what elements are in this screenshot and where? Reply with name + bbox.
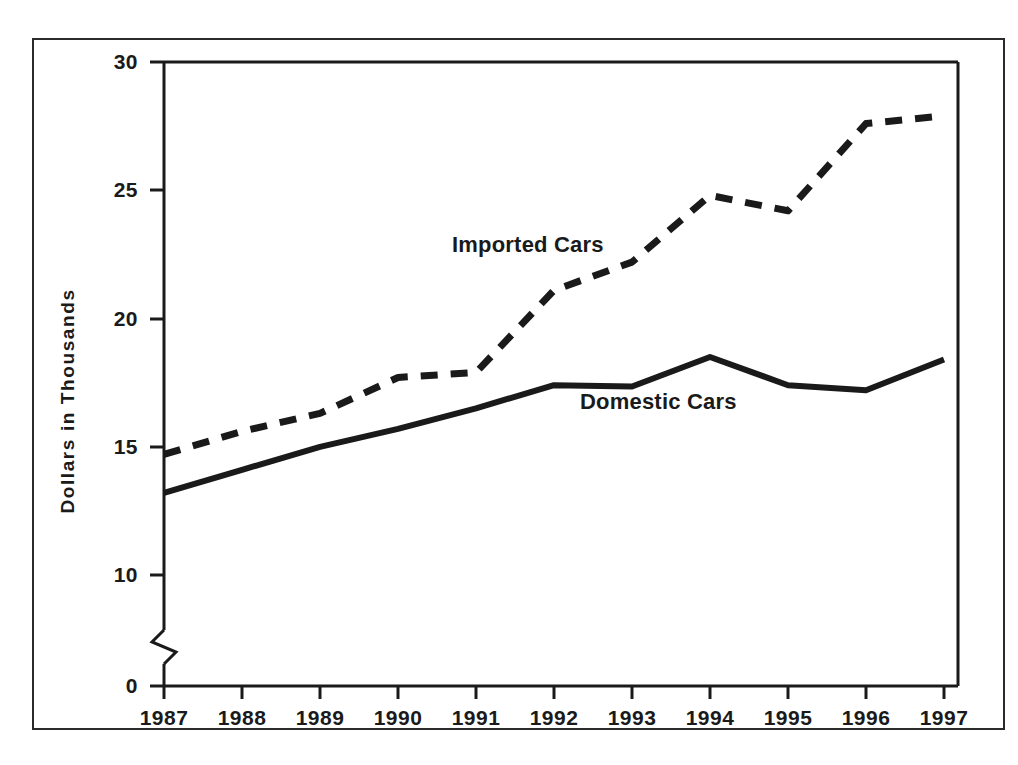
x-tick-marks [164, 686, 944, 699]
x-tick-label-1995: 1995 [743, 706, 833, 730]
x-tick-label-1994: 1994 [665, 706, 755, 730]
series-line-imported-cars [164, 116, 944, 455]
y-tick-label-15: 15 [78, 435, 138, 459]
series-label-domestic-cars: Domestic Cars [580, 389, 737, 415]
line-chart-plot [0, 0, 1018, 765]
y-axis-title: Dollars in Thousands [57, 281, 79, 521]
x-tick-label-1993: 1993 [587, 706, 677, 730]
x-tick-label-1989: 1989 [275, 706, 365, 730]
x-tick-label-1991: 1991 [431, 706, 521, 730]
y-tick-label-25: 25 [78, 178, 138, 202]
y-axis-break-symbol [152, 630, 176, 664]
x-tick-label-1990: 1990 [353, 706, 443, 730]
series-label-imported-cars: Imported Cars [452, 232, 604, 258]
x-tick-label-1987: 1987 [119, 706, 209, 730]
x-tick-label-1997: 1997 [899, 706, 989, 730]
x-tick-label-1992: 1992 [509, 706, 599, 730]
y-tick-label-20: 20 [78, 307, 138, 331]
y-tick-label-30: 30 [78, 50, 138, 74]
x-tick-label-1988: 1988 [197, 706, 287, 730]
chart-page: 30 25 20 15 10 0 Dollars in Thousands 19… [0, 0, 1018, 765]
y-tick-label-0: 0 [78, 674, 138, 698]
y-tick-label-10: 10 [78, 563, 138, 587]
y-tick-marks [150, 62, 164, 686]
x-tick-label-1996: 1996 [821, 706, 911, 730]
